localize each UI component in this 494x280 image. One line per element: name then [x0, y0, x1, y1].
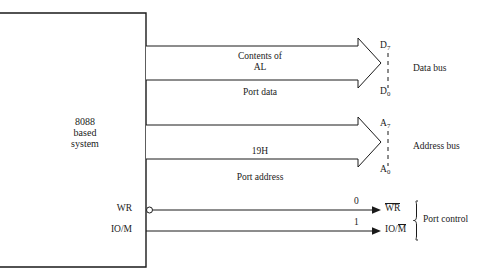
iom-source-label: IO/M: [82, 224, 132, 235]
data-bus-pin-low-index: 0: [387, 90, 390, 97]
address-bus-arrow-label: 19H: [180, 146, 340, 157]
wr-dest-overbar-text: WR: [385, 203, 400, 214]
address-bus-pin-low: A0: [380, 164, 390, 175]
address-bus-name: Address bus: [413, 141, 460, 152]
address-bus-pin-low-index: 0: [387, 168, 390, 175]
iom-value-label: 1: [354, 217, 359, 228]
address-bus-pin-low-letter: A: [380, 164, 387, 174]
diagram-canvas: 8088 based system Contents of AL Port da…: [0, 0, 494, 280]
data-bus-arrow-label-line-1: Contents of: [180, 51, 340, 62]
data-bus-under-label: Port data: [180, 87, 340, 98]
data-bus-pin-high: D7: [380, 40, 390, 51]
address-bus-arrow: [146, 117, 381, 167]
iom-signal-line: [146, 227, 381, 235]
address-bus-pin-high-index: 7: [387, 122, 390, 129]
wr-value-label: 0: [354, 196, 359, 207]
wr-source-label: WR: [92, 203, 132, 214]
data-bus-pin-high-index: 7: [387, 44, 390, 51]
system-block-line-3: system: [30, 138, 140, 149]
port-control-group-label: Port control: [423, 214, 468, 225]
iom-dest-prefix: IO/: [385, 224, 398, 234]
address-bus-pin-high: A7: [380, 118, 390, 129]
system-block-line-2: based: [30, 127, 140, 138]
data-bus-arrow-label-line-2: AL: [180, 62, 340, 73]
data-bus-pin-low-letter: D: [380, 86, 387, 96]
data-bus-pin-high-letter: D: [380, 40, 387, 50]
port-control-brace: [414, 201, 419, 240]
wr-signal-line: [147, 206, 382, 214]
iom-dest-label: IO/M: [385, 224, 406, 235]
address-bus-under-label: Port address: [180, 172, 340, 183]
data-bus-pin-low: D0: [380, 86, 390, 97]
address-bus-pin-high-letter: A: [380, 118, 387, 128]
iom-dest-overbar-text: M: [398, 224, 406, 235]
data-bus-arrow-label: Contents of AL: [180, 51, 340, 72]
system-block-label: 8088 based system: [30, 116, 140, 150]
data-bus-name: Data bus: [413, 63, 447, 74]
system-block-line-1: 8088: [30, 116, 140, 127]
wr-dest-label: WR: [385, 203, 400, 214]
